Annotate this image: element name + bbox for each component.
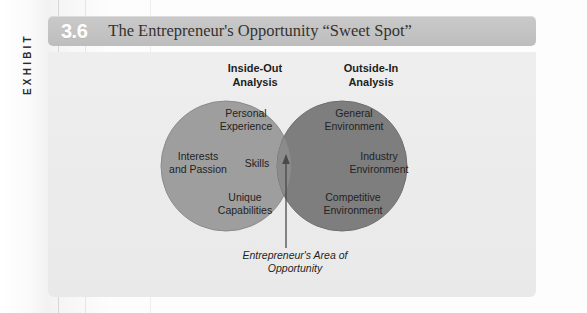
overlap-caption: Entrepreneur's Area of Opportunity <box>200 249 390 274</box>
label-industry-environment: Industry Environment <box>324 150 434 175</box>
label-skills: Skills <box>224 157 290 170</box>
exhibit-title-bar: 3.6 The Entrepreneur's Opportunity “Swee… <box>48 16 536 46</box>
label-personal-experience: Personal Experience <box>192 107 300 132</box>
label-unique-capabilities: Unique Capabilities <box>190 191 300 216</box>
label-competitive-environment: Competitive Environment <box>296 191 410 216</box>
exhibit-side-label: EXHIBIT <box>16 4 38 124</box>
label-general-environment: General Environment <box>298 107 410 132</box>
exhibit-number: 3.6 <box>61 20 87 43</box>
exhibit-page: EXHIBIT 3.6 The Entrepreneur's Opportuni… <box>0 0 587 313</box>
exhibit-body-panel: Inside-Out Analysis Outside-In Analysis <box>48 52 536 297</box>
venn-diagram: Personal Experience Interests and Passio… <box>48 52 536 297</box>
exhibit-title: The Entrepreneur's Opportunity “Sweet Sp… <box>108 21 412 41</box>
